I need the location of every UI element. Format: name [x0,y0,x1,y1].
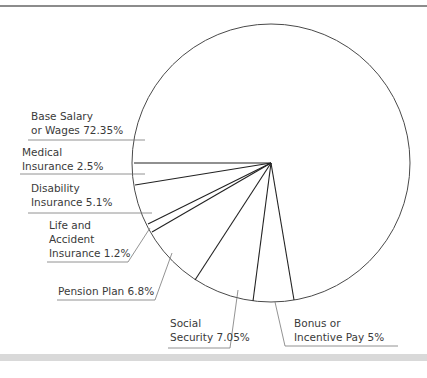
bottom-band [0,354,427,361]
label-disability-insurance: Disability Insurance 5.1% [31,181,113,209]
label-life-accident-insurance: Life and Accident Insurance 1.2% [49,218,131,260]
label-bonus-incentive: Bonus or Incentive Pay 5% [294,316,384,344]
label-medical-insurance: Medical Insurance 2.5% [22,145,104,173]
label-pension-plan: Pension Plan 6.8% [58,284,154,298]
label-social-security: Social Security 7.05% [170,316,250,344]
label-base-salary: Base Salary or Wages 72.35% [31,109,123,137]
